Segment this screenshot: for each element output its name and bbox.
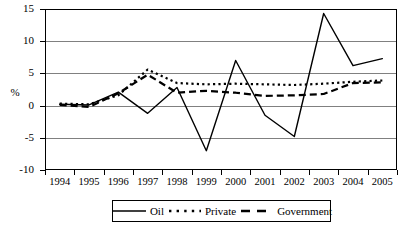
y-tick-label: -5 (8, 132, 34, 143)
x-tick-label: 1998 (161, 176, 193, 188)
x-tick-label: 1997 (132, 176, 164, 188)
legend-item-private: Private (168, 206, 236, 217)
legend-swatch-dashed (240, 207, 274, 215)
x-tick-mark (250, 170, 251, 175)
x-tick-label: 1999 (190, 176, 222, 188)
legend-label: Oil (150, 206, 164, 217)
x-tick-label: 2003 (308, 176, 340, 188)
x-tick-mark (397, 170, 398, 175)
x-tick-mark (221, 170, 222, 175)
x-tick-label: 2000 (220, 176, 252, 188)
y-tick-label: 5 (8, 67, 34, 78)
x-tick-label: 1995 (73, 176, 105, 188)
x-tick-mark (162, 170, 163, 175)
x-tick-mark (309, 170, 310, 175)
x-tick-mark (338, 170, 339, 175)
series-layer (45, 9, 397, 170)
x-tick-label: 2005 (366, 176, 398, 188)
x-tick-mark (192, 170, 193, 175)
line-chart: % 151050-5-10 19941995199619971998199920… (0, 0, 407, 234)
y-axis-title: % (4, 86, 26, 98)
x-tick-label: 2001 (249, 176, 281, 188)
x-tick-mark (133, 170, 134, 175)
x-tick-mark (104, 170, 105, 175)
x-tick-mark (368, 170, 369, 175)
y-tick-label: 10 (8, 35, 34, 46)
chart-legend: OilPrivateGovernment (112, 200, 331, 222)
series-line-oil (60, 14, 383, 151)
x-tick-label: 1996 (102, 176, 134, 188)
y-tick-label: 0 (8, 100, 34, 111)
y-tick-label: -10 (8, 164, 34, 175)
series-line-government (60, 75, 383, 107)
x-tick-mark (280, 170, 281, 175)
legend-label: Government (277, 206, 332, 217)
legend-swatch-solid (111, 207, 147, 215)
x-tick-label: 2004 (337, 176, 369, 188)
legend-item-oil: Oil (111, 206, 164, 217)
x-tick-label: 1994 (44, 176, 76, 188)
legend-label: Private (205, 206, 236, 217)
legend-item-government: Government (240, 206, 332, 217)
y-tick-label: 15 (8, 3, 34, 14)
x-tick-mark (45, 170, 46, 175)
x-tick-mark (74, 170, 75, 175)
x-tick-label: 2002 (278, 176, 310, 188)
legend-swatch-dotted (168, 207, 202, 215)
